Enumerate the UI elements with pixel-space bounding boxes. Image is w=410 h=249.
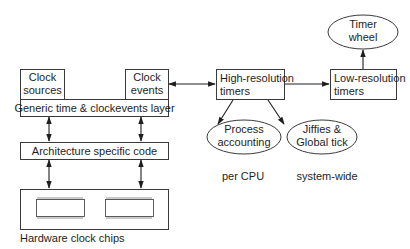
edge-high-res-process-accounting xyxy=(218,100,233,124)
hardware-node: Hardware clock chips xyxy=(20,190,169,245)
architecture-node: Architecture specific code xyxy=(21,143,169,160)
low-res-label-2: timers xyxy=(334,85,364,97)
clock-chip-icon xyxy=(37,197,85,219)
architecture-label: Architecture specific code xyxy=(32,145,157,157)
clock-sources-label-2: sources xyxy=(23,84,62,96)
timer-wheel-node: Timer wheel xyxy=(328,15,398,49)
high-res-label-1: High-resolution xyxy=(220,72,294,84)
generic-layer-node: Generic time & clockevents layer xyxy=(14,100,175,117)
low-res-label-1: Low-resolution xyxy=(334,72,406,84)
timekeeping-diagram: Clock sources Clock events Generic time … xyxy=(0,0,410,249)
clock-events-label-1: Clock xyxy=(133,71,161,83)
high-res-timers-node: High-resolution timers xyxy=(217,70,294,100)
process-accounting-node: Process accounting per CPU xyxy=(207,120,281,182)
process-accounting-label-2: accounting xyxy=(217,136,270,148)
timer-wheel-label-2: wheel xyxy=(348,31,378,43)
generic-layer-label: Generic time & clockevents layer xyxy=(14,102,175,114)
edge-high-res-jiffies xyxy=(268,100,284,124)
per-cpu-caption: per CPU xyxy=(222,170,264,182)
jiffies-global-tick-node: Jiffies & Global tick system-wide xyxy=(287,120,358,182)
hardware-label: Hardware clock chips xyxy=(20,232,125,244)
jiffies-label-1: Jiffies & xyxy=(303,123,342,135)
clock-events-label-2: events xyxy=(131,84,164,96)
process-accounting-label-1: Process xyxy=(224,123,264,135)
low-res-timers-node: Low-resolution timers xyxy=(331,70,406,100)
clock-events-node: Clock events xyxy=(126,70,169,100)
high-res-label-2: timers xyxy=(220,85,250,97)
jiffies-label-2: Global tick xyxy=(296,136,348,148)
clock-sources-label-1: Clock xyxy=(29,71,57,83)
clock-sources-node: Clock sources xyxy=(21,70,65,100)
clock-chip-icon xyxy=(106,197,154,219)
system-wide-caption: system-wide xyxy=(296,170,357,182)
timer-wheel-label-1: Timer xyxy=(349,18,377,30)
